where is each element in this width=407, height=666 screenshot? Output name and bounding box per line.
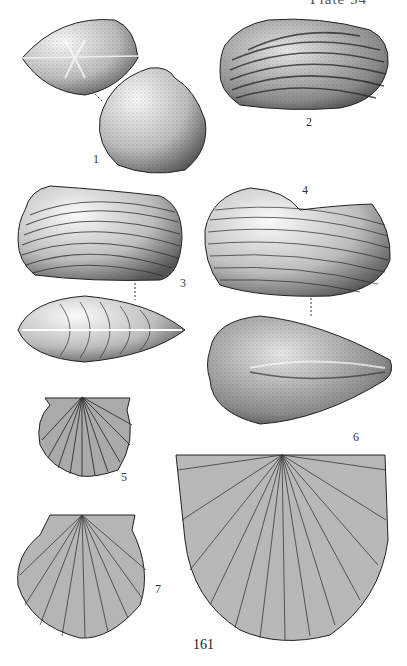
figure-label-3: 3: [180, 276, 186, 291]
plate-illustrations: [0, 0, 407, 666]
figure-label-1: 1: [93, 152, 99, 167]
figure-3-lateral: [18, 186, 182, 280]
figure-label-6: 6: [353, 430, 359, 445]
figure-1-lateral: [99, 68, 205, 173]
figure-2: [220, 19, 388, 109]
figure-label-5: 5: [121, 470, 127, 485]
figure-5: [39, 397, 132, 476]
figure-6: [208, 316, 392, 424]
figure-label-2: 2: [306, 115, 312, 130]
figure-7: [18, 515, 146, 638]
page-number: 161: [0, 637, 407, 653]
figure-large-radial: [176, 455, 388, 640]
figure-label-7: 7: [155, 582, 161, 597]
connector-line: [95, 94, 103, 102]
figure-4: [205, 188, 390, 296]
figure-3-dorsal: [18, 296, 185, 362]
figure-label-4: 4: [302, 183, 308, 198]
